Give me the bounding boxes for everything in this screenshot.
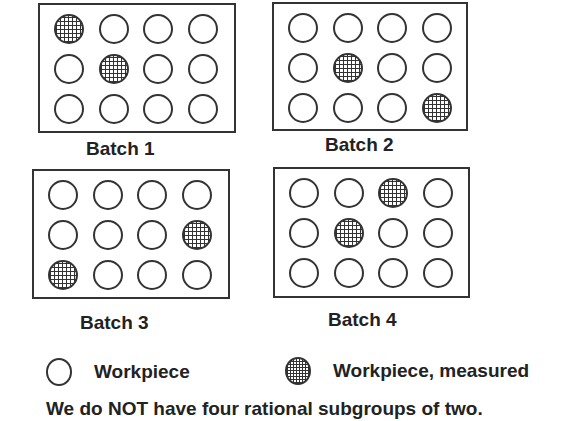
workpiece: [182, 180, 212, 210]
batch-4-label: Batch 4: [328, 309, 397, 331]
workpiece: [93, 260, 123, 290]
workpiece: [93, 180, 123, 210]
workpiece: [422, 53, 452, 83]
workpiece: [137, 180, 167, 210]
workpiece: [48, 180, 78, 210]
batch-4-box: [273, 167, 470, 298]
workpiece-measured: [48, 260, 78, 290]
workpiece: [188, 54, 218, 84]
workpiece: [378, 218, 408, 248]
batch-3-grid: [34, 171, 228, 297]
workpiece: [378, 258, 408, 288]
workpiece: [377, 13, 407, 43]
workpiece: [423, 218, 453, 248]
workpiece: [143, 94, 173, 124]
hatched-circle-icon: [285, 357, 311, 385]
workpiece: [334, 258, 364, 288]
batch-4-grid: [275, 169, 468, 296]
workpiece: [333, 93, 363, 123]
workpiece: [289, 258, 319, 288]
batch-3-label: Batch 3: [80, 312, 149, 334]
workpiece: [377, 53, 407, 83]
workpiece: [423, 258, 453, 288]
legend-measured-label: Workpiece, measured: [333, 360, 529, 382]
workpiece: [137, 220, 167, 250]
batch-2-label: Batch 2: [325, 134, 394, 156]
batch-3-box: [32, 169, 230, 299]
workpiece: [143, 14, 173, 44]
workpiece-measured: [378, 178, 408, 208]
workpiece: [182, 260, 212, 290]
workpiece: [422, 13, 452, 43]
workpiece: [288, 13, 318, 43]
workpiece: [54, 94, 84, 124]
workpiece: [288, 93, 318, 123]
workpiece: [333, 13, 363, 43]
workpiece: [188, 94, 218, 124]
workpiece: [54, 54, 84, 84]
workpiece: [377, 93, 407, 123]
workpiece-measured: [422, 93, 452, 123]
batch-1-box: [38, 3, 236, 133]
workpiece-measured: [54, 14, 84, 44]
workpiece: [93, 220, 123, 250]
workpiece: [99, 94, 129, 124]
legend-workpiece-measured: Workpiece, measured: [285, 357, 529, 385]
workpiece: [188, 14, 218, 44]
open-circle-icon: [46, 358, 72, 386]
conclusion-text: We do NOT have four rational subgroups o…: [46, 398, 483, 420]
workpiece: [99, 14, 129, 44]
workpiece: [423, 178, 453, 208]
workpiece: [288, 53, 318, 83]
workpiece: [289, 218, 319, 248]
legend-workpiece: Workpiece: [46, 358, 190, 386]
batch-1-grid: [40, 5, 234, 131]
workpiece: [289, 178, 319, 208]
workpiece: [48, 220, 78, 250]
workpiece: [143, 54, 173, 84]
legend-workpiece-label: Workpiece: [94, 361, 190, 383]
workpiece-measured: [182, 220, 212, 250]
workpiece-measured: [334, 218, 364, 248]
batch-2-grid: [274, 4, 466, 129]
workpiece: [137, 260, 167, 290]
batch-2-box: [272, 2, 468, 131]
batch-1-label: Batch 1: [86, 138, 155, 160]
workpiece: [334, 178, 364, 208]
workpiece-measured: [333, 53, 363, 83]
workpiece-measured: [99, 54, 129, 84]
